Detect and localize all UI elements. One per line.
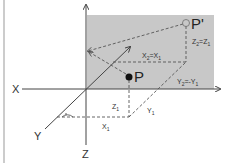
y1-label: Y1 <box>147 107 155 116</box>
p-prime-label: P' <box>191 15 204 32</box>
right-angle-dot-icon <box>65 113 67 115</box>
z-axis-label: Z <box>82 148 89 160</box>
x-axis-label: X <box>12 83 20 95</box>
point-p <box>126 74 133 81</box>
coordinate-reflection-diagram: X Y Z P P' Z1 Y1 X1 X2=X1 Y2=-Y1 Z2=Z1 <box>0 0 230 167</box>
z1-label: Z1 <box>112 103 119 112</box>
y-axis-label: Y <box>34 130 42 142</box>
p-label: P <box>134 68 144 85</box>
x1-label: X1 <box>102 123 110 132</box>
